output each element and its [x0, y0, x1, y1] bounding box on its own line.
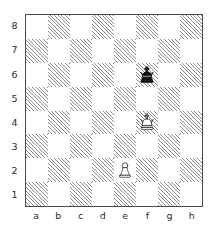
board-square-e2[interactable]: [114, 158, 136, 182]
rank-label-8: 8: [6, 14, 23, 38]
board-square-g5[interactable]: [158, 87, 180, 111]
board-square-e8[interactable]: [114, 15, 136, 39]
file-label-f: f: [136, 208, 158, 224]
rank-label-2: 2: [6, 159, 23, 183]
rank-label-3: 3: [6, 135, 23, 159]
board-square-f7[interactable]: [136, 39, 158, 63]
board-square-c3[interactable]: [70, 134, 92, 158]
board-square-c7[interactable]: [70, 39, 92, 63]
board-square-a4[interactable]: [26, 111, 48, 135]
white-pawn-icon[interactable]: [114, 159, 136, 181]
chess-board[interactable]: [25, 14, 203, 207]
board-square-h7[interactable]: [180, 39, 202, 63]
black-king-icon[interactable]: [136, 64, 158, 86]
board-square-d6[interactable]: [92, 63, 114, 87]
board-square-d5[interactable]: [92, 87, 114, 111]
board-square-c2[interactable]: [70, 158, 92, 182]
board-square-f6[interactable]: [136, 63, 158, 87]
board-square-a7[interactable]: [26, 39, 48, 63]
board-square-e6[interactable]: [114, 63, 136, 87]
board-square-c4[interactable]: [70, 111, 92, 135]
board-square-a3[interactable]: [26, 134, 48, 158]
board-square-h2[interactable]: [180, 158, 202, 182]
board-square-e3[interactable]: [114, 134, 136, 158]
rank-label-4: 4: [6, 111, 23, 135]
board-square-f5[interactable]: [136, 87, 158, 111]
board-square-d8[interactable]: [92, 15, 114, 39]
board-square-c8[interactable]: [70, 15, 92, 39]
board-square-f8[interactable]: [136, 15, 158, 39]
board-square-e1[interactable]: [114, 182, 136, 206]
file-label-c: c: [70, 208, 92, 224]
board-square-c1[interactable]: [70, 182, 92, 206]
board-square-d7[interactable]: [92, 39, 114, 63]
file-label-e: e: [114, 208, 136, 224]
board-square-h8[interactable]: [180, 15, 202, 39]
board-square-e5[interactable]: [114, 87, 136, 111]
rank-label-7: 7: [6, 38, 23, 62]
chess-diagram: 8 7 6 5 4 3 2 1: [0, 0, 221, 235]
board-square-a6[interactable]: [26, 63, 48, 87]
board-square-b3[interactable]: [48, 134, 70, 158]
board-square-f2[interactable]: [136, 158, 158, 182]
white-king-icon[interactable]: [136, 111, 158, 133]
board-square-h5[interactable]: [180, 87, 202, 111]
board-square-a2[interactable]: [26, 158, 48, 182]
board-square-f3[interactable]: [136, 134, 158, 158]
board-square-g4[interactable]: [158, 111, 180, 135]
board-square-f4[interactable]: [136, 111, 158, 135]
board-square-d2[interactable]: [92, 158, 114, 182]
rank-label-1: 1: [6, 183, 23, 207]
file-labels: a b c d e f g h: [25, 208, 203, 224]
board-square-a5[interactable]: [26, 87, 48, 111]
board-square-b7[interactable]: [48, 39, 70, 63]
board-square-h6[interactable]: [180, 63, 202, 87]
board-square-d3[interactable]: [92, 134, 114, 158]
board-square-g7[interactable]: [158, 39, 180, 63]
file-label-h: h: [181, 208, 203, 224]
board-square-g1[interactable]: [158, 182, 180, 206]
board-square-f1[interactable]: [136, 182, 158, 206]
board-square-g8[interactable]: [158, 15, 180, 39]
file-label-g: g: [159, 208, 181, 224]
board-square-c5[interactable]: [70, 87, 92, 111]
board-square-b2[interactable]: [48, 158, 70, 182]
board-square-g2[interactable]: [158, 158, 180, 182]
board-square-b6[interactable]: [48, 63, 70, 87]
file-label-a: a: [25, 208, 47, 224]
rank-label-5: 5: [6, 86, 23, 110]
board-square-h4[interactable]: [180, 111, 202, 135]
file-label-b: b: [47, 208, 69, 224]
board-square-d1[interactable]: [92, 182, 114, 206]
board-square-h3[interactable]: [180, 134, 202, 158]
board-square-b1[interactable]: [48, 182, 70, 206]
board-square-h1[interactable]: [180, 182, 202, 206]
board-square-b8[interactable]: [48, 15, 70, 39]
rank-label-6: 6: [6, 62, 23, 86]
file-label-d: d: [92, 208, 114, 224]
board-square-a1[interactable]: [26, 182, 48, 206]
board-square-e4[interactable]: [114, 111, 136, 135]
board-square-b5[interactable]: [48, 87, 70, 111]
board-square-b4[interactable]: [48, 111, 70, 135]
board-square-d4[interactable]: [92, 111, 114, 135]
board-square-g6[interactable]: [158, 63, 180, 87]
board-square-c6[interactable]: [70, 63, 92, 87]
board-square-a8[interactable]: [26, 15, 48, 39]
board-square-e7[interactable]: [114, 39, 136, 63]
board-square-g3[interactable]: [158, 134, 180, 158]
rank-labels: 8 7 6 5 4 3 2 1: [6, 14, 23, 207]
